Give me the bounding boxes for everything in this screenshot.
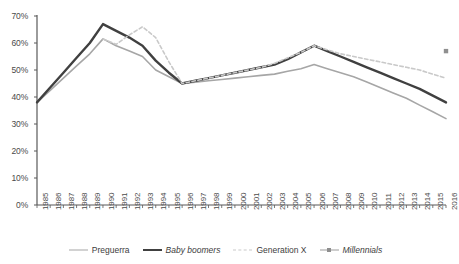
y-tick-label: 40% — [2, 92, 28, 102]
x-tick-label: 2006 — [318, 193, 327, 210]
x-tick-label: 2011 — [384, 193, 393, 210]
chart-legend: PreguerraBaby boomersGeneration XMillenn… — [0, 240, 451, 260]
x-tick-label: 2012 — [397, 193, 406, 210]
x-tick-label: 1992 — [133, 193, 142, 210]
x-tick-label: 1993 — [146, 193, 155, 210]
y-tick-label: 60% — [2, 38, 28, 48]
legend-item-millennials[interactable]: Millennials — [320, 245, 383, 255]
legend-label: Millennials — [343, 245, 383, 255]
legend-label: Generation X — [256, 245, 306, 255]
legend-swatch-icon — [143, 246, 162, 255]
x-tick-label: 1987 — [67, 193, 76, 210]
x-tick-label: 1995 — [173, 193, 182, 210]
series-marker-millennials — [444, 49, 448, 53]
x-tick-label: 1994 — [159, 193, 168, 210]
x-tick-label: 2009 — [357, 193, 366, 210]
y-tick-label: 0% — [2, 200, 28, 210]
legend-swatch-icon — [233, 246, 252, 255]
x-tick-label: 2010 — [370, 193, 379, 210]
x-tick-label: 1999 — [225, 193, 234, 210]
y-tick-label: 30% — [2, 119, 28, 129]
legend-item-preguerra[interactable]: Preguerra — [69, 245, 130, 255]
legend-swatch-icon — [320, 246, 339, 255]
x-tick-label: 2016 — [450, 193, 459, 210]
y-tick-label: 70% — [2, 11, 28, 21]
x-tick-label: 2004 — [291, 193, 300, 210]
x-tick-label: 2000 — [239, 193, 248, 210]
x-tick-label: 2005 — [304, 193, 313, 210]
y-tick-label: 10% — [2, 173, 28, 183]
legend-item-baby-boomers[interactable]: Baby boomers — [143, 245, 221, 255]
legend-swatch-icon — [69, 246, 88, 255]
x-tick-label: 1989 — [93, 193, 102, 210]
x-tick-label: 1997 — [199, 193, 208, 210]
x-tick-label: 2002 — [265, 193, 274, 210]
x-tick-label: 1998 — [212, 193, 221, 210]
x-tick-label: 1985 — [41, 193, 50, 210]
series-lines — [37, 24, 448, 119]
series-line-generation-x — [103, 27, 446, 84]
y-tick-label: 20% — [2, 146, 28, 156]
x-tick-label: 2008 — [344, 193, 353, 210]
x-tick-label: 2014 — [423, 193, 432, 210]
x-tick-label: 1988 — [80, 193, 89, 210]
x-tick-label: 2003 — [278, 193, 287, 210]
series-line-preguerra — [37, 39, 446, 119]
x-tick-label: 1996 — [186, 193, 195, 210]
y-tick-label: 50% — [2, 65, 28, 75]
x-tick-label: 1991 — [120, 193, 129, 210]
x-tick-label: 2013 — [410, 193, 419, 210]
x-tick-label: 1986 — [54, 193, 63, 210]
x-tick-label: 2015 — [436, 193, 445, 210]
axis-lines — [34, 15, 446, 208]
legend-label: Preguerra — [92, 245, 130, 255]
legend-label: Baby boomers — [166, 245, 221, 255]
legend-item-generation-x[interactable]: Generation X — [233, 245, 306, 255]
x-tick-label: 1990 — [107, 193, 116, 210]
x-tick-label: 2007 — [331, 193, 340, 210]
x-tick-label: 2001 — [252, 193, 261, 210]
